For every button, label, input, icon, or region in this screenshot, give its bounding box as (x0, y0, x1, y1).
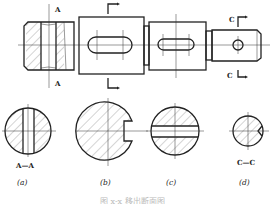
section-mark-c-top: C (229, 15, 235, 24)
cut-mark-c-bottom (238, 70, 245, 77)
section-b: (b) (75, 98, 148, 187)
shaft-end-d (212, 30, 261, 61)
cut-mark-b-top (108, 4, 117, 14)
section-a-caption: (a) (17, 178, 27, 187)
cut-mark-c-top (238, 17, 245, 27)
section-a: A—A (a) (2, 104, 56, 187)
shaft-main-view: A A C (18, 3, 270, 90)
section-d-caption: (d) (239, 178, 250, 187)
shaft-block-c (149, 14, 212, 78)
section-mark-a-bottom: A (54, 79, 61, 88)
cut-mark-b-bottom (108, 78, 117, 88)
section-c-caption: (c) (166, 178, 176, 187)
section-d-name: C—C (237, 158, 256, 167)
figure-title: 图 x-x 移出断面图 (100, 196, 165, 204)
removed-section-drawing: A A C (0, 0, 271, 204)
section-d: C—C (d) (229, 112, 269, 187)
section-c: (c) (146, 103, 204, 187)
shaft-block-b (79, 17, 149, 74)
section-mark-a-top: A (54, 5, 61, 14)
section-mark-c-bottom: C (227, 71, 233, 80)
section-a-name: A—A (15, 161, 34, 170)
section-b-caption: (b) (100, 178, 111, 187)
